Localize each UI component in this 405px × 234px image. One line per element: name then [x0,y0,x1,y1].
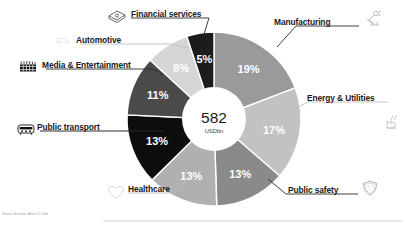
leader-financial-services [131,18,209,34]
callout-label-energy-utilities[interactable]: Energy & Utilities [307,94,375,102]
film-strip-icon [20,61,36,72]
callout-label-financial-services[interactable]: Financial services [131,10,201,18]
slice-percent-label: 13% [229,168,251,180]
money-stack-icon [109,11,125,23]
donut-chart: 582 USDbn 19%17%13%13%13%11%8%5% [0,0,405,234]
callout-label-manufacturing[interactable]: Manufacturing [274,18,330,26]
tram-icon [18,125,34,135]
callout-label-public-safety[interactable]: Public safety [288,186,338,194]
slice-percent-label: 13% [180,170,202,182]
slice-percent-label: 17% [263,124,285,136]
car-icon [56,39,69,44]
slice-percent-label: 11% [147,89,169,101]
source-note: Source: Ericsson, Arthur D. Little [2,212,48,216]
center-value: 582 [201,109,227,126]
robot-arm-icon [367,11,381,25]
center-unit: USDbn [205,128,224,134]
callout-label-media-entertainment[interactable]: Media & Entertainment [42,61,131,69]
power-plant-icon [387,115,397,128]
callout-label-automotive[interactable]: Automotive [76,36,121,44]
leader-manufacturing [277,26,359,47]
slice-percent-label: 13% [146,135,168,147]
chart-canvas: 582 USDbn 19%17%13%13%13%11%8%5% [0,0,405,234]
shield-icon [364,181,377,195]
slice-percent-label: 5% [196,53,212,65]
callout-label-healthcare[interactable]: Healthcare [128,185,170,193]
slice-percent-label: 19% [238,63,260,75]
callout-label-public-transport[interactable]: Public transport [37,123,100,131]
slice-percent-label: 8% [173,62,189,74]
heart-icon [109,186,124,198]
